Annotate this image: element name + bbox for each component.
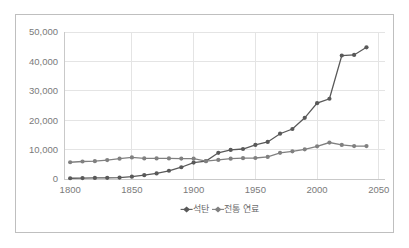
data-point-marker[interactable] <box>80 159 84 163</box>
y-tick-label: 10,000 <box>29 144 58 155</box>
data-point-marker[interactable] <box>266 155 270 159</box>
data-point-marker[interactable] <box>216 151 220 155</box>
data-point-marker[interactable] <box>105 176 109 180</box>
y-tick-label: 30,000 <box>29 85 58 96</box>
data-point-marker[interactable] <box>179 156 183 160</box>
line-chart[interactable]: 010,00020,00030,00040,00050,000 18001850… <box>16 15 393 232</box>
x-tick-label: 2050 <box>368 184 389 195</box>
data-point-marker[interactable] <box>142 156 146 160</box>
data-point-marker[interactable] <box>278 151 282 155</box>
data-point-marker[interactable] <box>241 156 245 160</box>
data-point-marker[interactable] <box>105 158 109 162</box>
data-point-marker[interactable] <box>192 157 196 161</box>
data-point-marker[interactable] <box>142 173 146 177</box>
y-tick-label: 0 <box>53 173 58 184</box>
data-point-marker[interactable] <box>93 176 97 180</box>
data-point-marker[interactable] <box>80 176 84 180</box>
y-tick-label: 50,000 <box>29 26 58 37</box>
x-tick-label: 1900 <box>183 184 204 195</box>
x-tick-label: 1950 <box>245 184 266 195</box>
data-point-marker[interactable] <box>229 148 233 152</box>
data-point-marker[interactable] <box>167 156 171 160</box>
data-point-marker[interactable] <box>315 101 319 105</box>
data-point-marker[interactable] <box>303 147 307 151</box>
legend-label: 전통 연료 <box>224 204 259 214</box>
data-point-marker[interactable] <box>117 175 121 179</box>
chart-background <box>16 15 393 232</box>
chart-figure: 010,00020,00030,00040,00050,000 18001850… <box>15 14 394 233</box>
data-point-marker[interactable] <box>352 53 356 57</box>
data-point-marker[interactable] <box>93 159 97 163</box>
x-tick-label: 1850 <box>121 184 142 195</box>
x-tick-label: 1800 <box>60 184 81 195</box>
data-point-marker[interactable] <box>167 169 171 173</box>
data-point-marker[interactable] <box>253 143 257 147</box>
data-point-marker[interactable] <box>364 144 368 148</box>
data-point-marker[interactable] <box>130 155 134 159</box>
data-point-marker[interactable] <box>340 143 344 147</box>
data-point-marker[interactable] <box>266 140 270 144</box>
data-point-marker[interactable] <box>315 144 319 148</box>
legend-label: 석탄 <box>193 204 209 214</box>
y-tick-label: 20,000 <box>29 115 58 126</box>
data-point-marker[interactable] <box>241 147 245 151</box>
data-point-marker[interactable] <box>290 149 294 153</box>
data-point-marker[interactable] <box>364 45 368 49</box>
data-point-marker[interactable] <box>278 132 282 136</box>
y-tick-label: 40,000 <box>29 56 58 67</box>
data-point-marker[interactable] <box>179 165 183 169</box>
data-point-marker[interactable] <box>155 171 159 175</box>
data-point-marker[interactable] <box>155 156 159 160</box>
data-point-marker[interactable] <box>290 127 294 131</box>
data-point-marker[interactable] <box>327 97 331 101</box>
data-point-marker[interactable] <box>130 175 134 179</box>
data-point-marker[interactable] <box>216 158 220 162</box>
data-point-marker[interactable] <box>117 157 121 161</box>
data-point-marker[interactable] <box>303 116 307 120</box>
data-point-marker[interactable] <box>327 140 331 144</box>
data-point-marker[interactable] <box>229 157 233 161</box>
data-point-marker[interactable] <box>340 53 344 57</box>
x-tick-label: 2000 <box>307 184 328 195</box>
data-point-marker[interactable] <box>253 156 257 160</box>
data-point-marker[interactable] <box>68 176 72 180</box>
data-point-marker[interactable] <box>204 159 208 163</box>
data-point-marker[interactable] <box>68 160 72 164</box>
data-point-marker[interactable] <box>192 160 196 164</box>
data-point-marker[interactable] <box>352 144 356 148</box>
